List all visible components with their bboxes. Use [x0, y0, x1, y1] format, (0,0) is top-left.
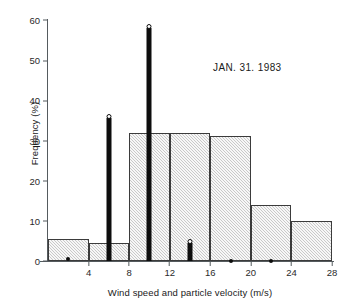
velocity-spike-marker	[147, 24, 152, 29]
histogram-bar	[251, 205, 292, 261]
y-tick-50: 50	[29, 55, 48, 66]
velocity-spike	[188, 243, 193, 261]
x-tick-12: 12	[164, 261, 175, 278]
x-tick-16: 16	[205, 261, 216, 278]
y-tick-0: 0	[35, 256, 48, 267]
y-tick-60: 60	[29, 15, 48, 26]
velocity-spike-marker	[188, 239, 193, 244]
velocity-spike-marker	[106, 114, 111, 119]
y-axis-label: Frequency (%)	[29, 54, 40, 214]
plot-area: 0102030405060 481216202428	[48, 20, 332, 261]
y-tick-10: 10	[29, 215, 48, 226]
x-tick-24: 24	[286, 261, 297, 278]
date-annotation: JAN. 31. 1983	[213, 62, 282, 73]
y-tick-30: 30	[29, 135, 48, 146]
x-tick-4: 4	[86, 261, 91, 278]
histogram-bar	[210, 136, 251, 261]
velocity-spike	[106, 118, 111, 261]
y-tick-20: 20	[29, 175, 48, 186]
x-tick-28: 28	[327, 261, 338, 278]
y-tick-40: 40	[29, 95, 48, 106]
velocity-point-marker	[269, 259, 273, 263]
x-tick-8: 8	[126, 261, 131, 278]
velocity-point-marker	[66, 257, 70, 261]
x-axis-label: Wind speed and particle velocity (m/s)	[48, 287, 332, 298]
chart-figure: Frequency (%) Wind speed and particle ve…	[0, 0, 348, 307]
x-tick-20: 20	[246, 261, 257, 278]
histogram-bar	[291, 221, 332, 261]
velocity-point-marker	[229, 259, 233, 263]
velocity-spike	[147, 28, 152, 261]
